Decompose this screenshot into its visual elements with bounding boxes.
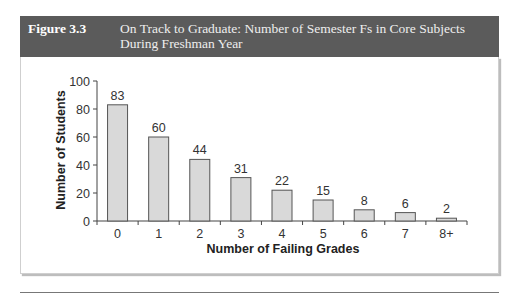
bar-value-label: 60: [152, 121, 166, 135]
x-axis: 012345678+: [97, 221, 467, 241]
bar-value-label: 15: [316, 184, 330, 198]
x-tick-label: 8+: [439, 227, 453, 241]
x-tick-label: 1: [155, 227, 162, 241]
y-tick-label: 0: [83, 215, 90, 229]
x-tick-label: 4: [279, 227, 286, 241]
y-tick-label: 20: [76, 187, 90, 201]
bar-value-label: 83: [111, 89, 125, 103]
bars: 836044312215862: [108, 89, 457, 221]
bar: [149, 137, 169, 221]
x-tick-label: 7: [402, 227, 409, 241]
bar: [313, 200, 333, 221]
bar: [436, 218, 456, 221]
x-axis-label: Number of Failing Grades: [207, 242, 360, 256]
y-tick-label: 100: [69, 75, 90, 89]
x-tick-label: 5: [320, 227, 327, 241]
bar: [108, 105, 128, 221]
x-tick-label: 3: [237, 227, 244, 241]
x-tick-label: 6: [361, 227, 368, 241]
bar-value-label: 8: [361, 194, 368, 208]
bar-chart: 020406080100 012345678+ 836044312215862 …: [0, 0, 516, 299]
y-axis-label: Number of Students: [54, 90, 68, 209]
bar-value-label: 2: [443, 202, 450, 216]
x-tick-label: 0: [114, 227, 121, 241]
bar-value-label: 22: [275, 174, 289, 188]
bar-value-label: 31: [234, 162, 248, 176]
y-axis: 020406080100: [69, 75, 97, 229]
y-tick-label: 80: [76, 103, 90, 117]
bar: [190, 159, 210, 221]
bottom-rule: [20, 292, 499, 293]
x-tick-label: 2: [196, 227, 203, 241]
bar: [272, 190, 292, 221]
bar-value-label: 44: [193, 143, 207, 157]
bar-value-label: 6: [402, 197, 409, 211]
y-tick-label: 60: [76, 131, 90, 145]
bar: [395, 213, 415, 221]
bar: [354, 210, 374, 221]
y-tick-label: 40: [76, 159, 90, 173]
bar: [231, 178, 251, 221]
